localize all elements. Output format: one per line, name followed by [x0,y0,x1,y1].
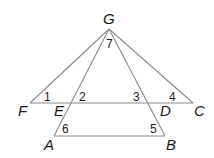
angle-label-7: 7 [106,37,113,51]
point-label-e: E [54,102,65,119]
segment-gf [30,29,109,103]
angle-label-1: 1 [44,90,51,104]
angle-label-5: 5 [150,122,157,136]
angle-label-6: 6 [62,122,69,136]
point-label-d: D [160,102,171,119]
point-label-a: A [43,136,54,153]
segment-gc [109,29,193,103]
point-label-g: G [103,10,115,27]
angle-label-3: 3 [133,90,140,104]
point-label-c: C [194,102,205,119]
segment-gb [109,29,165,136]
point-label-f: F [18,102,28,119]
segment-ga [54,29,109,136]
geometry-diagram: G F E D C A B 1 2 3 4 5 6 7 [0,0,214,158]
point-label-b: B [166,136,176,153]
angle-label-4: 4 [169,90,176,104]
angle-label-2: 2 [79,90,86,104]
